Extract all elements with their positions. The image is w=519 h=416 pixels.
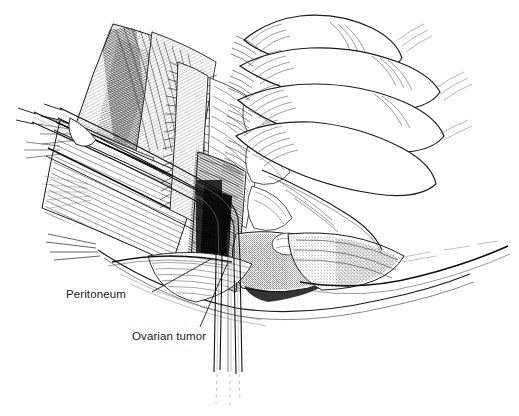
medical-illustration-figure: Peritoneum Ovarian tumor [0, 0, 519, 416]
label-peritoneum: Peritoneum [66, 289, 126, 301]
label-ovarian-tumor: Ovarian tumor [132, 331, 206, 343]
surgical-illustration-drawing [0, 0, 519, 416]
